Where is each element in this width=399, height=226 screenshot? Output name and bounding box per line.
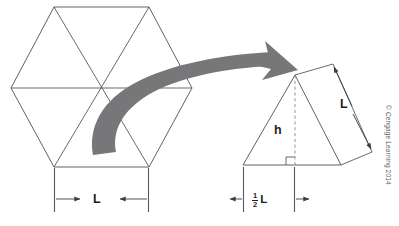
half-base-dimension-group — [230, 167, 309, 212]
triangle-outline — [243, 75, 341, 165]
side-dim-arrow-lower — [353, 114, 371, 149]
triangle-side-label: L — [340, 98, 348, 111]
fraction-numerator: 1 — [252, 192, 258, 200]
half-base-unit: L — [260, 194, 267, 206]
copyright-notice: © Cengage Learning 2014 — [385, 105, 392, 215]
arrow-body — [92, 52, 273, 155]
hexagon-side-label: L — [93, 193, 101, 206]
fraction-denominator: 2 — [252, 200, 258, 209]
side-dim-witness-top — [295, 64, 333, 75]
curved-transfer-arrow — [92, 41, 298, 155]
triangle-altitude-label: h — [274, 124, 282, 137]
right-angle-marker — [286, 157, 295, 165]
geometry-figure: L h L 1 2 L © Cengage Learning 2014 — [0, 0, 399, 226]
figure-canvas — [0, 0, 399, 226]
fraction-one-half: 1 2 — [252, 192, 258, 208]
triangle-group — [243, 75, 341, 165]
hexagon-side-dimension-group — [55, 168, 149, 212]
side-dim-witness-bottom — [341, 152, 372, 165]
half-base-label: 1 2 L — [252, 192, 267, 208]
